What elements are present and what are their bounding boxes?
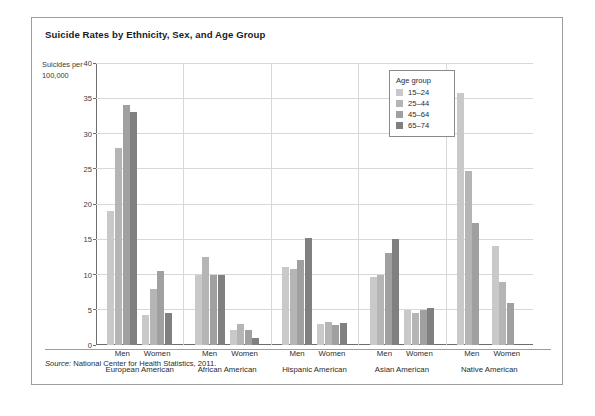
x-tick-label-sex: Men bbox=[202, 349, 217, 358]
bar bbox=[427, 308, 434, 345]
x-tick-label-sex: Men bbox=[115, 349, 130, 358]
bar bbox=[465, 171, 472, 345]
y-tick-mark bbox=[93, 168, 96, 169]
bar bbox=[237, 324, 244, 345]
x-tick-label-ethnicity: Native American bbox=[461, 365, 518, 374]
bar bbox=[457, 93, 464, 345]
footer-divider bbox=[45, 349, 551, 350]
bar bbox=[370, 277, 377, 345]
y-tick-label: 30 bbox=[84, 129, 92, 138]
bar bbox=[305, 238, 312, 345]
bar bbox=[115, 148, 122, 345]
bar bbox=[499, 282, 506, 345]
legend: Age group 15–2425–4445–6465–74 bbox=[389, 70, 455, 137]
gridline bbox=[96, 133, 533, 134]
bar bbox=[157, 271, 164, 345]
x-tick-label-sex: Men bbox=[377, 349, 392, 358]
x-tick-label-sex: Men bbox=[289, 349, 304, 358]
bar bbox=[142, 315, 149, 345]
bar bbox=[420, 310, 427, 345]
bar bbox=[252, 338, 259, 345]
bar bbox=[202, 257, 209, 345]
y-tick-label: 35 bbox=[84, 94, 92, 103]
legend-swatch-icon bbox=[396, 122, 403, 129]
legend-swatch-icon bbox=[396, 111, 403, 118]
legend-item: 25–44 bbox=[396, 99, 448, 108]
legend-swatch-icon bbox=[396, 100, 403, 107]
x-tick-label-ethnicity: Hispanic American bbox=[282, 365, 347, 374]
x-tick-label-sex: Women bbox=[406, 349, 433, 358]
bar bbox=[130, 112, 137, 345]
figure-title: Suicide Rates by Ethnicity, Sex, and Age… bbox=[45, 29, 266, 40]
x-tick-label-sex: Women bbox=[144, 349, 171, 358]
y-tick-label: 25 bbox=[84, 164, 92, 173]
legend-swatch-icon bbox=[396, 89, 403, 96]
y-tick-mark bbox=[93, 63, 96, 64]
bar bbox=[340, 323, 347, 345]
legend-item: 15–24 bbox=[396, 88, 448, 97]
source-note: Source: National Center for Health Stati… bbox=[45, 359, 216, 368]
bar bbox=[218, 275, 225, 346]
x-tick-label-ethnicity: Asian American bbox=[375, 365, 429, 374]
y-tick-mark bbox=[93, 309, 96, 310]
plot-canvas: 0510152025303540 bbox=[96, 63, 533, 345]
figure-card: Suicide Rates by Ethnicity, Sex, and Age… bbox=[31, 17, 563, 385]
bar bbox=[107, 211, 114, 345]
bar bbox=[507, 303, 514, 345]
group-separator bbox=[183, 63, 184, 345]
bar bbox=[392, 239, 399, 345]
y-tick-mark bbox=[93, 98, 96, 99]
legend-item-label: 65–74 bbox=[408, 121, 429, 130]
bar bbox=[404, 310, 411, 345]
y-tick-mark bbox=[93, 133, 96, 134]
gridline bbox=[96, 168, 533, 169]
legend-item-label: 15–24 bbox=[408, 88, 429, 97]
y-tick-mark bbox=[93, 345, 96, 346]
bar bbox=[210, 275, 217, 346]
x-tick-label-sex: Men bbox=[464, 349, 479, 358]
bar bbox=[150, 289, 157, 345]
gridline bbox=[96, 63, 533, 64]
bar bbox=[230, 330, 237, 346]
bar bbox=[195, 275, 202, 346]
bar bbox=[123, 105, 130, 345]
bar bbox=[385, 253, 392, 345]
source-text: National Center for Health Statistics, 2… bbox=[73, 359, 216, 368]
legend-item-label: 45–64 bbox=[408, 110, 429, 119]
bar bbox=[332, 325, 339, 345]
legend-item-label: 25–44 bbox=[408, 99, 429, 108]
y-tick-label: 40 bbox=[84, 59, 92, 68]
y-tick-mark bbox=[93, 274, 96, 275]
y-tick-label: 5 bbox=[88, 305, 92, 314]
legend-title: Age group bbox=[396, 76, 448, 85]
x-tick-label-sex: Women bbox=[231, 349, 258, 358]
group-separator bbox=[358, 63, 359, 345]
y-tick-label: 20 bbox=[84, 200, 92, 209]
y-tick-mark bbox=[93, 204, 96, 205]
bar bbox=[325, 322, 332, 345]
legend-item: 65–74 bbox=[396, 121, 448, 130]
bar bbox=[377, 275, 384, 346]
gridline bbox=[96, 98, 533, 99]
x-tick-label-sex: Women bbox=[319, 349, 346, 358]
legend-item: 45–64 bbox=[396, 110, 448, 119]
y-tick-mark bbox=[93, 239, 96, 240]
group-separator bbox=[271, 63, 272, 345]
bar bbox=[290, 269, 297, 345]
bar bbox=[472, 223, 479, 345]
bar bbox=[297, 260, 304, 345]
y-tick-label: 15 bbox=[84, 235, 92, 244]
bar bbox=[317, 324, 324, 345]
bar bbox=[245, 330, 252, 346]
bar bbox=[412, 313, 419, 345]
bar bbox=[492, 246, 499, 345]
x-tick-label-sex: Women bbox=[493, 349, 520, 358]
bar bbox=[165, 313, 172, 345]
plot-area: 0510152025303540 bbox=[96, 63, 533, 345]
bar bbox=[282, 267, 289, 345]
source-label: Source: bbox=[45, 359, 71, 368]
y-tick-label: 10 bbox=[84, 270, 92, 279]
